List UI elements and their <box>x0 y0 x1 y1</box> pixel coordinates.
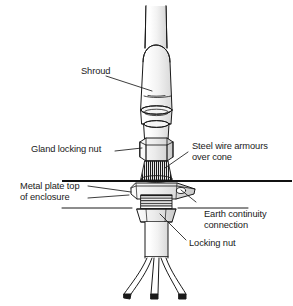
gland-upper-barrel <box>144 121 169 140</box>
shroud-part <box>141 45 172 110</box>
leader-metal-plate-lower <box>88 195 129 198</box>
gland-locking-nut-part <box>140 138 173 161</box>
label-metal-plate-line1: Metal plate top <box>20 181 79 192</box>
label-earth-continuity-line2: connection <box>204 220 248 231</box>
label-steel-wire-armours-line2: over cone <box>192 152 232 163</box>
leader-metal-plate-upper <box>88 186 131 192</box>
leader-gland-locking-nut <box>115 148 142 151</box>
label-earth-continuity-line1: Earth continuity <box>204 209 266 220</box>
conductors-part <box>124 258 186 299</box>
inner-cable-part <box>145 222 168 258</box>
label-gland-locking-nut: Gland locking nut <box>31 144 101 155</box>
cable-part <box>145 6 167 48</box>
diagram-root: Shroud Gland locking nut Steel wire armo… <box>0 0 293 306</box>
armour-cone-part <box>141 161 172 182</box>
label-shroud: Shroud <box>81 66 110 77</box>
label-steel-wire-armours-line1: Steel wire armours <box>192 141 268 152</box>
label-metal-plate-line2: of enclosure <box>20 192 69 203</box>
locking-nut-part <box>137 209 176 222</box>
label-locking-nut: Locking nut <box>189 238 235 249</box>
